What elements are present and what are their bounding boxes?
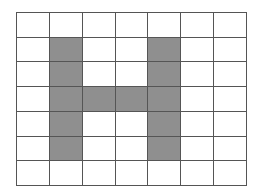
grid-cell — [116, 112, 149, 137]
grid-cell — [50, 161, 83, 186]
grid-cell-filled — [50, 112, 83, 137]
grid-cell-filled — [148, 87, 181, 112]
grid-cell-filled — [50, 38, 83, 63]
grid-cell — [181, 38, 214, 63]
grid-cell — [181, 87, 214, 112]
grid-cell — [116, 137, 149, 162]
grid-cell — [17, 38, 50, 63]
grid-cell — [17, 161, 50, 186]
grid-cell — [50, 13, 83, 38]
grid-cell — [17, 13, 50, 38]
grid-cell — [214, 38, 247, 63]
grid-cell — [83, 13, 116, 38]
grid-cell — [17, 137, 50, 162]
grid-cell — [116, 62, 149, 87]
pixel-grid — [16, 12, 247, 186]
grid-cell — [83, 38, 116, 63]
grid-cell — [181, 112, 214, 137]
grid-cell — [148, 13, 181, 38]
grid-cell-filled — [148, 112, 181, 137]
grid-cell — [214, 87, 247, 112]
grid-cell — [214, 161, 247, 186]
grid-cell — [116, 13, 149, 38]
grid-cell-filled — [148, 62, 181, 87]
grid-cell — [17, 112, 50, 137]
grid-cell — [181, 137, 214, 162]
grid-cell — [214, 137, 247, 162]
grid-cell-filled — [148, 137, 181, 162]
grid-cell-filled — [50, 137, 83, 162]
grid-cell — [214, 13, 247, 38]
grid-cell — [181, 161, 214, 186]
grid-cell — [83, 62, 116, 87]
grid-cell — [83, 137, 116, 162]
grid-cell — [214, 62, 247, 87]
grid-cell — [214, 112, 247, 137]
grid-cell-filled — [83, 87, 116, 112]
grid-cell — [83, 112, 116, 137]
grid-cell — [181, 13, 214, 38]
grid-cell — [148, 161, 181, 186]
grid-cell-filled — [50, 62, 83, 87]
grid-cell — [116, 38, 149, 63]
grid-cell — [17, 87, 50, 112]
grid-cell — [181, 62, 214, 87]
grid-cell — [83, 161, 116, 186]
grid-cell-filled — [50, 87, 83, 112]
grid-cell-filled — [116, 87, 149, 112]
grid-cell-filled — [148, 38, 181, 63]
grid-cell — [116, 161, 149, 186]
grid-cell — [17, 62, 50, 87]
